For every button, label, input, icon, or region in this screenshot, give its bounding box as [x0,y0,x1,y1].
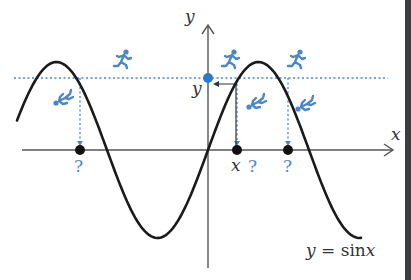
question-mark-1: ? [74,158,83,175]
runner-icon-2 [222,49,239,68]
sine-diagram: y x y x ? ? ? y = sinx [0,0,411,280]
falling-runner-icon-1 [53,90,73,106]
equation-lhs: y [306,240,316,260]
page-edge-bar [405,0,411,280]
equation-label: y = sinx [306,242,375,259]
solution-point-3 [283,145,293,155]
equation-fn: sin [341,240,366,260]
diagram-canvas [0,0,411,280]
solution-point-2 [232,145,242,155]
falling-runner-icon-3 [295,96,315,112]
equation-equals: = [321,240,335,260]
equation-var: x [366,240,376,260]
runner-icon-3 [288,49,305,68]
x-axis-label: x [391,126,401,143]
solution-point-1 [75,145,85,155]
question-mark-2: ? [248,158,257,175]
runner-icon-1 [114,49,131,68]
falling-runner-icon-2 [246,94,266,110]
given-y-label: y [192,80,202,97]
projection-arrowhead [213,81,219,87]
marked-x-label: x [231,157,241,174]
question-mark-3: ? [283,158,292,175]
y-axis-label: y [185,8,195,25]
given-y-dot [203,73,213,83]
